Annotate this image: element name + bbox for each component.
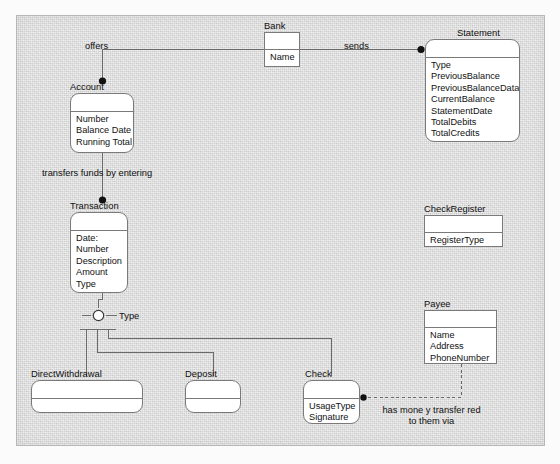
attr-payee-phonenumber: PhoneNumber [430,353,496,363]
diagram-canvas: Bank Statement Account Transaction Check… [0,0,560,464]
class-head-deposit [186,381,240,399]
class-attrs-payee: Name Address PhoneNumber [425,328,496,363]
class-attrs-deposit [186,399,240,412]
class-name-transaction: Transaction [70,200,119,211]
attr-transaction-number: Number [76,244,127,255]
class-name-checkregister: CheckRegister [424,203,485,214]
attr-checkregister-registertype: RegisterType [430,235,502,246]
attr-payee-address: Address [430,341,496,352]
class-box-checkregister[interactable]: RegisterType [424,215,503,247]
class-box-bank[interactable]: Name [264,32,300,67]
class-box-transaction[interactable]: Date: Number Description Amount Type [70,212,128,293]
class-head-checkregister [425,216,502,233]
class-box-directwithdrawal[interactable] [31,380,143,413]
class-name-directwithdrawal: DirectWithdrawal [31,368,102,379]
attr-payee-name: Name [430,330,496,341]
assoc-label-offers: offers [85,41,108,52]
class-head-statement [426,40,519,58]
class-head-bank [265,33,299,50]
class-attrs-check: UsageType Signature [304,399,359,423]
attr-statement-previousbalancedata: PreviousBalanceData [431,83,519,94]
generalization-discriminator-label: Type [119,310,139,321]
class-attrs-transaction: Date: Number Description Amount Type [71,231,127,292]
class-name-statement: Statement [457,27,500,38]
attr-check-usagetype: UsageType [309,401,359,412]
attr-statement-previousbalance: PreviousBalance [431,71,519,82]
class-box-account[interactable]: Number Balance Date Running Total [70,93,134,153]
class-box-statement[interactable]: Type PreviousBalance PreviousBalanceData… [425,39,520,142]
attr-check-signature: Signature [309,412,359,423]
attr-transaction-type: Type [76,279,127,290]
class-name-deposit: Deposit [185,368,217,379]
assoc-label-sends: sends [344,41,369,52]
class-name-payee: Payee [424,298,451,309]
attr-transaction-description: Description [76,256,127,267]
class-name-account: Account [70,81,104,92]
attr-statement-currentbalance: CurrentBalance [431,94,519,105]
attr-statement-totalcredits: TotalCredits [431,128,519,139]
class-head-account [71,94,133,112]
assoc-label-payee-check-line1: has mone y transfer red [382,405,480,415]
class-name-bank: Bank [264,20,285,31]
assoc-label-payee-check: has mone y transfer red to them via [369,405,494,427]
attr-account-number: Number [76,114,133,125]
attr-account-runningtotal: Running Total [76,137,133,148]
class-attrs-account: Number Balance Date Running Total [71,112,133,152]
assoc-label-payee-check-line2: to them via [409,416,454,426]
attr-bank-name: Name [270,52,299,63]
attr-statement-statementdate: StatementDate [431,106,519,117]
attr-statement-balancingitems: BalancingItems [431,140,519,141]
attr-statement-totaldebits: TotalDebits [431,117,519,128]
class-head-directwithdrawal [32,381,142,399]
class-box-check[interactable]: UsageType Signature [303,380,360,424]
class-name-check: Check [305,368,332,379]
class-box-deposit[interactable] [185,380,241,413]
class-attrs-bank: Name [265,50,299,66]
assoc-label-transfers: transfers funds by entering [42,168,152,179]
class-head-check [304,381,359,399]
class-attrs-statement: Type PreviousBalance PreviousBalanceData… [426,58,519,141]
class-attrs-directwithdrawal [32,399,142,412]
attr-statement-type: Type [431,60,519,71]
attr-account-balancedate: Balance Date [76,125,133,136]
attr-transaction-date: Date: [76,233,127,244]
class-attrs-checkregister: RegisterType [425,233,502,246]
class-head-payee [425,311,496,328]
attr-transaction-amount: Amount [76,267,127,278]
class-box-payee[interactable]: Name Address PhoneNumber [424,310,497,364]
class-head-transaction [71,213,127,231]
